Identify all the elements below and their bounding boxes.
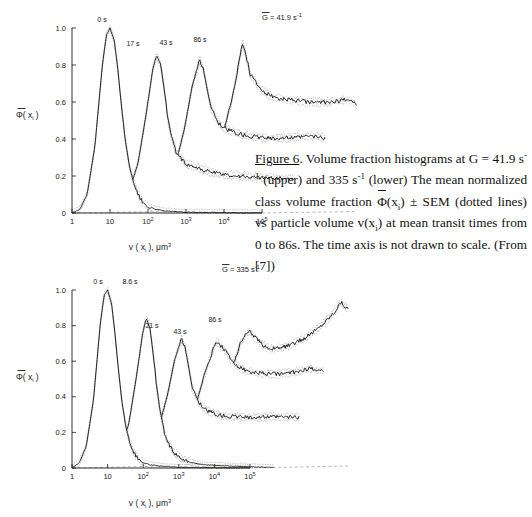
- upper-panel-title: G = 41.9 s-1: [262, 12, 302, 22]
- x-tick-label: 1: [70, 217, 74, 226]
- caption-sup-2: -1: [357, 171, 365, 181]
- x-tick-label: 104: [218, 216, 229, 226]
- curve-time-label: 8.6 s: [122, 278, 138, 285]
- lower-x-axis-label: v ( xi ), μm3: [129, 498, 171, 509]
- figure-caption: Figure 6. Volume fraction histograms at …: [255, 148, 527, 276]
- y-tick-label: 1.0: [56, 286, 66, 295]
- caption-figure-number: Figure 6: [255, 151, 299, 166]
- y-tick-label: 0.4: [56, 135, 66, 144]
- caption-text-1: . Volume fraction histograms at G = 41.9…: [299, 151, 524, 166]
- lower-curves-group: [72, 287, 348, 468]
- y-tick-label: 0: [62, 209, 66, 218]
- curve-time-label: 0 s: [93, 278, 103, 285]
- x-tick-label: 10: [103, 472, 111, 481]
- x-tick-label: 102: [137, 471, 148, 481]
- upper-y-axis-label: Φ( xi ): [16, 110, 39, 121]
- x-tick-label: 103: [173, 471, 184, 481]
- curve-time-label: 86 s: [193, 36, 207, 43]
- y-tick-label: 0: [62, 464, 66, 473]
- curve-time-label: 43 s: [159, 39, 173, 46]
- caption-text-2: (upper) and 335 s: [260, 172, 358, 187]
- y-tick-label: 0.2: [56, 172, 66, 181]
- x-tick-label: 10: [106, 217, 114, 226]
- x-tick-label: 103: [180, 216, 191, 226]
- y-tick-label: 1.0: [56, 24, 66, 33]
- y-tick-label: 0.8: [56, 61, 66, 70]
- y-tick-label: 0.6: [56, 357, 66, 366]
- figure-container: 00.20.40.60.81.0110102103104105 0 s17 s4…: [0, 0, 532, 517]
- curve-time-label: 0 s: [97, 16, 107, 23]
- y-tick-label: 0.6: [56, 98, 66, 107]
- x-tick-label: 102: [142, 216, 153, 226]
- curve-time-label: 86 s: [208, 316, 222, 323]
- curve-time-label: 21 s: [145, 322, 159, 329]
- y-tick-label: 0.8: [56, 321, 66, 330]
- lower-plot-svg: 00.20.40.60.81.0110102103104105 0 s8.6 s…: [0, 250, 380, 517]
- x-tick-label: 1: [70, 472, 74, 481]
- y-tick-label: 0.4: [56, 392, 66, 401]
- lower-plot-panel: 00.20.40.60.81.0110102103104105 0 s8.6 s…: [0, 250, 380, 517]
- caption-phi-open: (x: [387, 194, 398, 209]
- curve-time-label: 17 s: [126, 40, 140, 47]
- x-tick-label: 104: [209, 471, 220, 481]
- x-tick-label: 105: [244, 471, 255, 481]
- y-tick-label: 0.2: [56, 428, 66, 437]
- lower-y-axis-label: Φ( xi ): [16, 372, 39, 383]
- caption-phi-overbar: Φ: [377, 191, 387, 212]
- curve-time-label: 43 s: [173, 328, 187, 335]
